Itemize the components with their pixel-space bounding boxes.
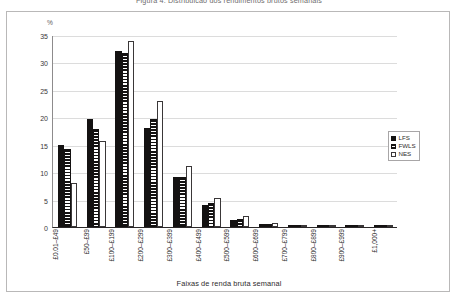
bar-nes: [99, 141, 105, 227]
y-axis-tick-label: 35: [32, 33, 48, 40]
plot-area: [52, 36, 397, 228]
legend-item-fwls: FWLS: [391, 142, 416, 150]
legend-swatch-icon: [391, 136, 396, 141]
bar-group: [82, 36, 111, 227]
y-axis-tick-label: 25: [32, 87, 48, 94]
bar-group: [226, 36, 255, 227]
figure-title: Figura 4: Distribuicao dos rendimentos b…: [0, 0, 458, 6]
legend-swatch-icon: [391, 152, 396, 157]
legend-item-nes: NES: [391, 150, 416, 158]
x-axis-tick-label: £0.01–£49: [53, 229, 60, 260]
chart-legend: LFSFWLSNES: [388, 131, 420, 161]
x-axis-tick-label: £600–£699: [253, 229, 260, 262]
bar-group: [254, 36, 283, 227]
bar-nes: [272, 223, 278, 227]
bar-group: [53, 36, 82, 227]
legend-label: NES: [399, 151, 412, 157]
x-axis-tick-labels: £0.01–£49£50–£99£100–£199£200–£299£300–£…: [52, 229, 397, 277]
y-axis-tick-labels: 05101520253035: [30, 36, 48, 228]
bar-group: [139, 36, 168, 227]
x-axis-tick-label: £300–£399: [167, 229, 174, 262]
y-axis-unit-label: %: [47, 19, 53, 26]
x-axis-tick-label: £400–£499: [196, 229, 203, 262]
legend-swatch-icon: [391, 144, 396, 149]
x-axis-tick-label: £100–£199: [109, 229, 116, 262]
bar-group: [283, 36, 312, 227]
bar-nes: [71, 183, 77, 227]
x-axis-title: Faixas de renda bruta semanal: [0, 279, 458, 288]
bar-group: [168, 36, 197, 227]
bar-nes: [358, 225, 364, 227]
bar-nes: [387, 225, 393, 227]
bar-group: [312, 36, 341, 227]
bar-group: [111, 36, 140, 227]
bar-nes: [301, 225, 307, 227]
legend-label: LFS: [399, 135, 410, 141]
bar-nes: [214, 198, 220, 227]
y-axis-tick-label: 30: [32, 60, 48, 67]
bar-nes: [128, 41, 134, 228]
x-axis-tick-label: £1,000+: [372, 229, 379, 253]
bar-nes: [186, 166, 192, 227]
y-axis-tick-label: 20: [32, 115, 48, 122]
legend-item-lfs: LFS: [391, 134, 416, 142]
bar-nes: [329, 225, 335, 227]
y-axis-tick-label: 15: [32, 142, 48, 149]
x-axis-tick-label: £800–£899: [311, 229, 318, 262]
x-axis-tick-label: £700–£799: [282, 229, 289, 262]
bar-group: [197, 36, 226, 227]
bar-nes: [157, 101, 163, 227]
x-axis-tick-label: £50–£99: [84, 229, 91, 254]
bar-nes: [243, 216, 249, 227]
bar-group: [341, 36, 370, 227]
x-axis-tick-label: £200–£299: [138, 229, 145, 262]
y-axis-tick-label: 0: [32, 225, 48, 232]
legend-label: FWLS: [399, 143, 416, 149]
y-axis-tick-label: 10: [32, 170, 48, 177]
y-axis-tick-label: 5: [32, 197, 48, 204]
x-axis-tick-label: £900–£999: [339, 229, 346, 262]
x-axis-tick-label: £500–£599: [224, 229, 231, 262]
